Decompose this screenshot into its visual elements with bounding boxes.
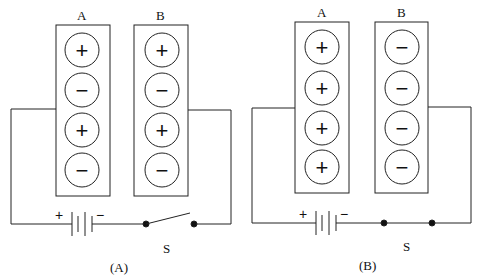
battery-plus: + (299, 206, 307, 222)
charge: − (76, 78, 89, 103)
charge: − (76, 158, 89, 183)
plate-a-label: A (317, 5, 327, 20)
switch-open (143, 213, 197, 227)
wire-right (428, 107, 471, 223)
charge: + (316, 116, 329, 141)
figure-caption: (A) (110, 260, 128, 275)
charge: + (316, 76, 329, 101)
battery-plus: + (55, 207, 63, 223)
switch-label: S (403, 239, 410, 254)
charge: − (396, 116, 409, 141)
wire-right (188, 110, 231, 224)
plate-a-charges: + + + + (305, 30, 339, 184)
plate-b-charges: + − + − (145, 33, 179, 187)
charge: + (156, 38, 169, 63)
charge: − (396, 155, 409, 180)
charge: − (156, 158, 169, 183)
figure-a: A B + − + − + − + − + − (11, 8, 231, 275)
plate-a-label: A (77, 8, 87, 23)
figure-b: A B + + + + − − − − + − (252, 5, 471, 273)
plate-b-label: B (397, 5, 406, 20)
plate-a-charges: + − + − (65, 33, 99, 187)
charge: + (316, 35, 329, 60)
charge: − (396, 35, 409, 60)
charge: + (156, 118, 169, 143)
battery-icon (316, 211, 336, 235)
charge: − (396, 76, 409, 101)
figure-caption: (B) (359, 258, 376, 273)
switch-label: S (163, 241, 170, 256)
plate-b-label: B (156, 8, 165, 23)
battery-minus: − (96, 207, 104, 223)
battery-minus: − (340, 206, 348, 222)
battery-icon (72, 212, 92, 236)
charge: − (156, 78, 169, 103)
charge: + (76, 118, 89, 143)
charge: + (76, 38, 89, 63)
plate-b-charges: − − − − (385, 30, 419, 184)
charge: + (316, 155, 329, 180)
